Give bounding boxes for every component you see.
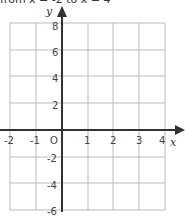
y-tick-label: 4: [52, 73, 58, 84]
y-tick-label: 2: [52, 100, 58, 111]
y-tick-label: 8: [52, 21, 58, 32]
x-tick-label: 4: [159, 135, 165, 146]
x-axis-arrow-icon: [175, 125, 185, 135]
grid-lines: [10, 23, 165, 210]
origin-label: O: [50, 135, 58, 146]
x-tick-label: -1: [30, 135, 40, 146]
y-tick-label: -2: [47, 153, 57, 164]
y-axis-label: y: [45, 5, 53, 18]
x-axis-label: x: [170, 136, 177, 149]
y-tick-label: -6: [47, 206, 57, 217]
x-tick-label: 2: [110, 135, 116, 146]
x-tick-label: 1: [84, 135, 90, 146]
x-tick-label: 3: [136, 135, 142, 146]
coordinate-grid: x y O -2 -1 1 2 3 4 8 6 4 2 -2 -4 -6: [0, 0, 185, 223]
x-tick-label: -2: [4, 135, 14, 146]
y-axis-arrow-icon: [57, 6, 67, 17]
y-tick-label: -4: [47, 180, 57, 191]
y-tick-label: 6: [52, 47, 58, 58]
